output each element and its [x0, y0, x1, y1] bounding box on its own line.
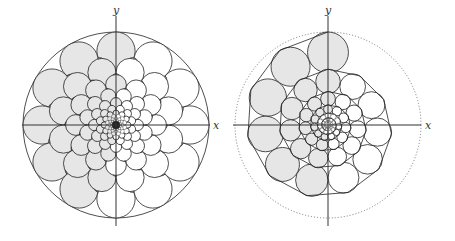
packing-circle — [296, 164, 328, 196]
packing-circle — [329, 121, 331, 123]
circle-packing-figure: x y x y — [0, 0, 455, 241]
packing-circle — [328, 162, 359, 193]
packing-circle — [324, 123, 326, 125]
left-y-label: y — [112, 4, 120, 17]
packing-circle — [341, 122, 351, 132]
packing-circle — [363, 118, 391, 146]
right-y-label: y — [324, 4, 332, 17]
packing-circle — [349, 121, 366, 138]
right-x-label: x — [425, 119, 432, 132]
left-x-label: x — [213, 119, 220, 132]
